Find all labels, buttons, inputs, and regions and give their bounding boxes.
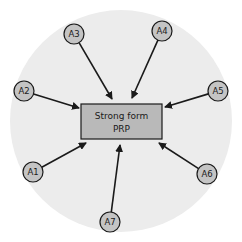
node-a2: A2 (14, 81, 34, 101)
node-a5: A5 (208, 81, 228, 101)
node-label: A1 (27, 167, 38, 177)
node-a7: A7 (100, 212, 120, 232)
center-box-group: Strong form PRP (81, 104, 162, 139)
prp-diagram: Strong form PRP A1A2A3A4A5A6A7 (0, 0, 242, 242)
node-label: A2 (18, 86, 29, 96)
node-a4: A4 (152, 21, 172, 41)
node-a6: A6 (197, 164, 217, 184)
node-label: A3 (68, 29, 79, 39)
node-a1: A1 (23, 162, 43, 182)
node-label: A7 (104, 217, 115, 227)
node-label: A4 (156, 26, 167, 36)
node-label: A5 (212, 86, 223, 96)
center-box-label-line2: PRP (113, 124, 131, 134)
center-box-label-line1: Strong form (95, 111, 149, 121)
node-label: A6 (201, 169, 212, 179)
node-a3: A3 (64, 24, 84, 44)
